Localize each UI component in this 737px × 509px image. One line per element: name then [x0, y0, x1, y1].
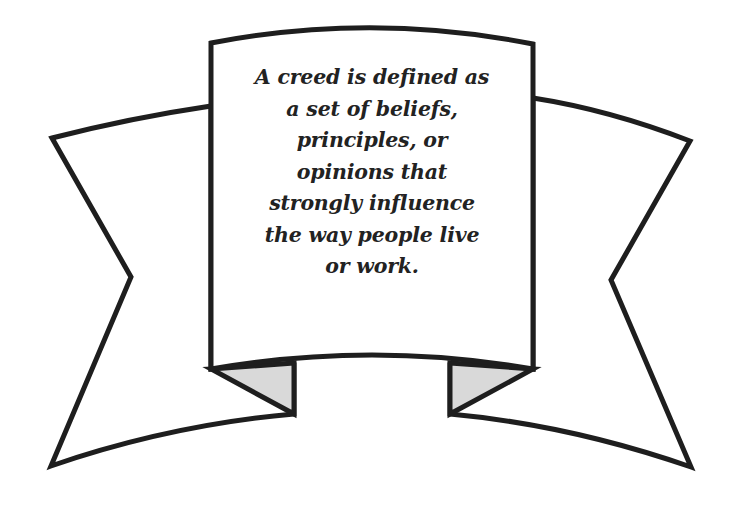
text-line: A creed is defined as [218, 62, 526, 94]
text-line: opinions that [218, 157, 526, 189]
text-line: a set of beliefs, [218, 94, 526, 126]
text-line: strongly influence [218, 188, 526, 220]
text-line: principles, or [218, 125, 526, 157]
text-line: or work. [218, 251, 526, 283]
text-line: the way people live [218, 220, 526, 252]
creed-definition-text: A creed is defined as a set of beliefs, … [218, 62, 526, 283]
